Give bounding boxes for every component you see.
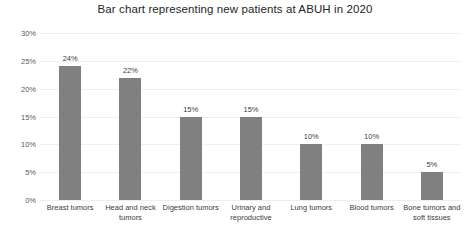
chart-title: Bar chart representing new patients at A…	[0, 3, 470, 15]
bar[interactable]	[59, 66, 81, 200]
y-axis-tick-label: 15%	[0, 112, 36, 121]
y-axis-tick-label: 25%	[0, 56, 36, 65]
bar[interactable]	[421, 172, 443, 200]
bar[interactable]	[180, 117, 202, 201]
bars-layer: 24%22%15%15%10%10%5%	[40, 33, 462, 200]
bar-value-label: 10%	[304, 132, 319, 141]
x-axis-category-label: Urinary and reproductive	[221, 203, 281, 222]
y-axis-tick-label: 30%	[0, 29, 36, 38]
bar-chart: Bar chart representing new patients at A…	[0, 0, 470, 234]
gridline	[40, 200, 462, 201]
bar-group[interactable]: 24%	[40, 33, 100, 200]
bar-group[interactable]: 22%	[100, 33, 160, 200]
bar[interactable]	[240, 117, 262, 201]
bar-value-label: 10%	[364, 132, 379, 141]
bar[interactable]	[361, 144, 383, 200]
bar-value-label: 5%	[426, 160, 437, 169]
y-axis: 30%25%20%15%10%5%0%	[0, 33, 36, 200]
bar[interactable]	[119, 78, 141, 200]
x-axis-category-label: Bone tumors and soft tissues	[402, 203, 462, 222]
bar-group[interactable]: 15%	[161, 33, 221, 200]
x-axis-category-label: Lung tumors	[281, 203, 341, 213]
y-axis-tick-label: 20%	[0, 84, 36, 93]
y-axis-tick-label: 5%	[0, 168, 36, 177]
bar-value-label: 24%	[63, 54, 78, 63]
x-axis-category-label: Breast tumors	[40, 203, 100, 213]
x-axis-category-label: Head and neck tumors	[100, 203, 160, 222]
bar-value-label: 15%	[243, 105, 258, 114]
x-axis-category-label: Digestion tumors	[161, 203, 221, 213]
bar-group[interactable]: 10%	[281, 33, 341, 200]
bar-value-label: 15%	[183, 105, 198, 114]
bar-group[interactable]: 15%	[221, 33, 281, 200]
y-axis-tick-label: 10%	[0, 140, 36, 149]
bar-group[interactable]: 5%	[402, 33, 462, 200]
bar-group[interactable]: 10%	[341, 33, 401, 200]
bar[interactable]	[300, 144, 322, 200]
plot-area: 24%22%15%15%10%10%5%	[40, 33, 462, 200]
bar-value-label: 22%	[123, 66, 138, 75]
y-axis-tick-label: 0%	[0, 196, 36, 205]
x-axis-category-label: Blood tumors	[341, 203, 401, 213]
x-axis: Breast tumorsHead and neck tumorsDigesti…	[40, 203, 462, 234]
